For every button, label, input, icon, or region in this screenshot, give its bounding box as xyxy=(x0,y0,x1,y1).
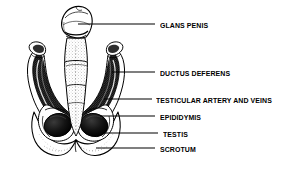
label-epididymis: EPIDIDYMIS xyxy=(160,113,201,122)
diagram-page: GLANS PENIS DUCTUS DEFERENS TESTICULAR A… xyxy=(0,0,308,174)
anatomy-figure xyxy=(0,0,308,174)
label-scrotum: SCROTUM xyxy=(160,145,196,154)
glans-penis-shape xyxy=(62,6,93,38)
label-testis: TESTIS xyxy=(163,130,188,139)
label-testicular-artery-and-veins: TESTICULAR ARTERY AND VEINS xyxy=(156,96,272,105)
label-glans-penis: GLANS PENIS xyxy=(160,21,208,30)
label-ductus-deferens: DUCTUS DEFERENS xyxy=(160,69,230,78)
